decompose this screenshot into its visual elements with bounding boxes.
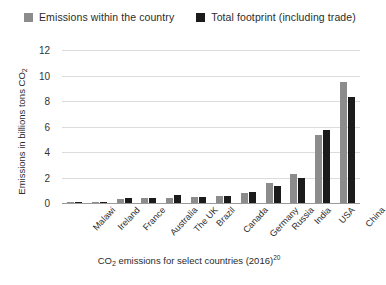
bar — [67, 202, 74, 203]
y-axis-tick-labels: 121086420 — [0, 50, 58, 203]
bar-group — [335, 50, 360, 203]
x-axis-tick-label: India — [312, 205, 333, 226]
bar — [149, 198, 156, 203]
x-axis-tick-label: Ireland — [116, 205, 142, 232]
bar — [216, 196, 223, 203]
bar-group — [286, 50, 311, 203]
x-axis-tick-label: Australia — [168, 205, 199, 237]
bar — [92, 202, 99, 203]
y-axis-tick-2: 2 — [44, 172, 50, 183]
legend-entry-total-footprint: Total footprint (including trade) — [196, 11, 356, 23]
bar-group — [87, 50, 112, 203]
y-axis-tick-10: 10 — [39, 70, 50, 81]
bar-group — [137, 50, 162, 203]
bar — [266, 183, 273, 203]
x-axis-line — [62, 203, 360, 204]
x-axis-tick-label: Canada — [241, 205, 270, 235]
bar-group — [310, 50, 335, 203]
bar — [241, 193, 248, 203]
x-axis-tick-label: Malawi — [91, 205, 117, 232]
caption-subscript: 2 — [112, 260, 116, 267]
bar — [290, 174, 297, 203]
bar — [100, 202, 107, 203]
chart-legend: Emissions within the country Total footp… — [24, 11, 356, 23]
chart-caption: CO2 emissions for select countries (2016… — [0, 255, 378, 266]
bar-group — [186, 50, 211, 203]
bar — [75, 202, 82, 203]
legend-label-total-footprint: Total footprint (including trade) — [211, 11, 356, 23]
bar — [125, 198, 132, 203]
bar — [191, 197, 198, 203]
y-axis-tick-8: 8 — [44, 96, 50, 107]
bar — [224, 196, 231, 203]
bar — [348, 97, 355, 203]
bar — [340, 82, 347, 203]
bar-group — [112, 50, 137, 203]
bar — [166, 198, 173, 203]
bar-group — [62, 50, 87, 203]
caption-main: emissions for select countries (2016) — [116, 255, 273, 266]
bar — [174, 195, 181, 203]
y-axis-tick-0: 0 — [44, 198, 50, 209]
bar-group — [236, 50, 261, 203]
bar — [141, 198, 148, 203]
legend-swatch-within-country-icon — [24, 13, 33, 22]
y-axis-tick-4: 4 — [44, 147, 50, 158]
bar — [117, 199, 124, 203]
bar-group — [211, 50, 236, 203]
bar-chart: Emissions in billions tons CO2 121086420… — [0, 34, 378, 285]
x-axis-tick-label: USA — [337, 205, 357, 225]
x-axis-tick-label: France — [141, 205, 167, 232]
bar-group — [161, 50, 186, 203]
bar — [315, 135, 322, 203]
legend-label-within-country: Emissions within the country — [39, 11, 174, 23]
y-axis-tick-12: 12 — [39, 45, 50, 56]
bar — [323, 130, 330, 203]
legend-entry-within-country: Emissions within the country — [24, 11, 174, 23]
y-axis-tick-6: 6 — [44, 121, 50, 132]
legend-swatch-total-footprint-icon — [196, 13, 205, 22]
bar — [199, 197, 206, 203]
bar — [249, 192, 256, 203]
x-axis-tick-label: China — [363, 205, 386, 229]
caption-footnote-marker: 20 — [273, 254, 280, 261]
caption-prefix: CO — [98, 255, 112, 266]
bar-group — [261, 50, 286, 203]
bar-series-container — [62, 50, 360, 203]
bar — [298, 178, 305, 204]
bar — [274, 186, 281, 203]
